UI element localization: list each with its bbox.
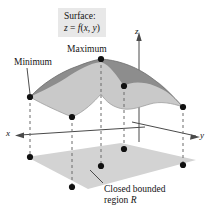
surface-figure: Surface: z = f(x, y) Minimum Maximum Clo… bbox=[0, 0, 215, 213]
axis-y-arrowhead bbox=[190, 134, 200, 139]
surface-caption-line1: Surface: bbox=[64, 11, 96, 21]
point-maximum bbox=[98, 56, 104, 62]
axis-y-line bbox=[132, 122, 196, 136]
point-right-edge bbox=[180, 104, 186, 110]
base-point-front bbox=[69, 184, 75, 190]
region-label-symbol: R bbox=[131, 195, 137, 205]
region-label-prefix: region bbox=[104, 195, 131, 205]
surface-equation-caption: Surface: z = f(x, y) bbox=[58, 8, 106, 37]
point-minimum bbox=[27, 94, 33, 100]
base-point-center bbox=[98, 163, 104, 169]
axis-x-arrowhead bbox=[15, 133, 24, 139]
axis-label-x: x bbox=[6, 128, 10, 138]
maximum-label: Maximum bbox=[67, 44, 107, 55]
leader-line-minimum bbox=[27, 68, 30, 94]
axis-label-z: z bbox=[135, 26, 139, 36]
base-point-left bbox=[27, 154, 33, 160]
surface-caption-line2: z = f(x, y) bbox=[64, 23, 100, 34]
region-label-line1: Closed bounded bbox=[104, 184, 165, 194]
point-valley bbox=[69, 114, 75, 120]
axis-x-line bbox=[20, 127, 145, 135]
axis-label-y: y bbox=[200, 130, 204, 140]
base-point-back bbox=[121, 146, 127, 152]
surface-caption-equals: = bbox=[68, 23, 78, 33]
surface-caption-paren-close: ) bbox=[97, 23, 100, 33]
point-saddle bbox=[121, 83, 127, 89]
figure-canvas bbox=[0, 0, 215, 213]
base-point-right bbox=[180, 162, 186, 168]
closed-bounded-region-label: Closed bounded region R bbox=[104, 184, 165, 205]
region-label-line2: region R bbox=[104, 195, 165, 206]
minimum-label: Minimum bbox=[14, 57, 52, 68]
base-plane-group bbox=[27, 143, 196, 189]
closed-bounded-region-plane bbox=[27, 143, 196, 189]
